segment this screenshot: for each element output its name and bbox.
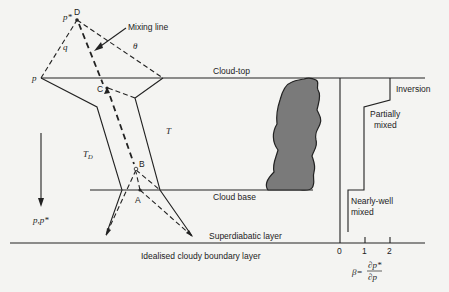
- partially-mixed-label-2: mixed: [374, 120, 397, 130]
- q-dashed-line: [41, 20, 77, 78]
- mixing-line-lower: [110, 96, 134, 164]
- beta-label: β=: [351, 267, 363, 277]
- a-up-dashed: [136, 172, 140, 190]
- point-d-label: D: [74, 7, 80, 17]
- mixing-line-upper: [79, 24, 103, 84]
- beta-denominator: ∂p: [368, 272, 377, 282]
- inversion-label: Inversion: [396, 84, 431, 94]
- pressure-axis-label: p,p*: [32, 215, 49, 225]
- beta-numerator: ∂p*: [368, 260, 382, 270]
- p-star-label: p*: [62, 12, 73, 22]
- superdiabatic-label: Superdiabatic layer: [209, 231, 282, 241]
- point-a-label: A: [135, 195, 141, 205]
- point-c-label: C: [97, 84, 103, 94]
- a-right-dashed: [140, 190, 192, 236]
- partially-mixed-label-1: Partially: [370, 109, 401, 119]
- c-dashed-link: [108, 88, 135, 98]
- dewpoint-profile-line: [41, 78, 122, 235]
- point-d-marker: [75, 18, 79, 22]
- point-a-marker: [138, 188, 141, 191]
- beta-tick-label-1: 1: [362, 246, 367, 256]
- mixing-line-label: Mixing line: [128, 22, 168, 32]
- dewpoint-subscript: D: [87, 153, 93, 160]
- beta-tick-label-0: 0: [337, 246, 342, 256]
- pressure-axis-arrowhead-icon: [38, 198, 44, 207]
- p-label: p: [31, 73, 37, 83]
- cloud-base-label: Cloud base: [213, 192, 256, 202]
- nearly-well-mixed-label-2: mixed: [351, 207, 374, 217]
- temperature-profile-line: [135, 78, 192, 236]
- right-tip-arrowhead-icon: [186, 230, 193, 237]
- cloud-top-label: Cloud-top: [213, 66, 250, 76]
- mixing-line-pointer: [98, 28, 126, 48]
- cloudy-boundary-layer-diagram: D p* C B A p q θ T TD Mixing line p,p* C…: [0, 0, 449, 292]
- b-left-dashed: [106, 170, 136, 235]
- caption: Idealised cloudy boundary layer: [141, 251, 261, 261]
- cloud-shape: [266, 78, 320, 190]
- mixing-line-arrowhead-icon: [94, 42, 103, 51]
- left-tip-arrowhead-icon: [106, 228, 111, 236]
- temperature-label: T: [166, 126, 172, 136]
- point-c-marker: [105, 86, 108, 89]
- point-b-marker: [134, 167, 138, 171]
- q-label: q: [63, 42, 68, 52]
- nearly-well-mixed-label-1: Nearly-well: [351, 196, 393, 206]
- dewpoint-label: TD: [83, 149, 93, 160]
- point-b-label: B: [139, 159, 145, 169]
- theta-label: θ: [133, 41, 138, 51]
- beta-tick-label-2: 2: [387, 246, 392, 256]
